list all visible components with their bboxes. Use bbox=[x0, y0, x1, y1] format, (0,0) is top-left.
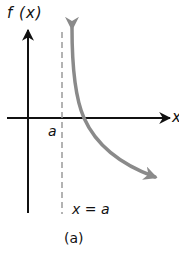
asymptote-equation-label: x = a bbox=[72, 201, 110, 217]
y-axis-label: f (x) bbox=[7, 4, 43, 22]
graph-canvas bbox=[0, 0, 179, 259]
figure-caption: (a) bbox=[64, 230, 84, 246]
asymptote-point-label: a bbox=[48, 123, 57, 139]
x-axis-label: x bbox=[172, 108, 179, 126]
function-curve bbox=[72, 28, 155, 177]
